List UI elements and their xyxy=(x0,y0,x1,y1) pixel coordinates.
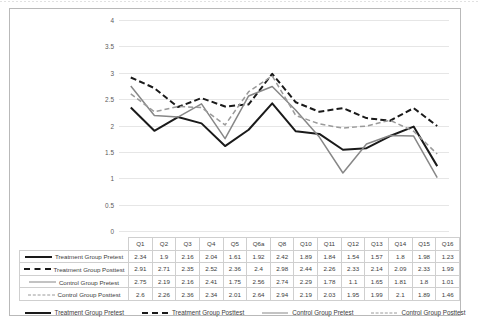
y-axis-tick-label: 0.5 xyxy=(105,201,114,208)
table-cell: 2.33 xyxy=(412,263,436,276)
table-cell: 2.42 xyxy=(270,250,294,263)
series-swatch-icon xyxy=(29,279,56,285)
y-axis-tick-label: 3.5 xyxy=(105,43,114,50)
legend-swatch-icon xyxy=(262,310,288,316)
table-cell: 2.35 xyxy=(176,263,200,276)
table-column-header: Q11 xyxy=(318,238,342,251)
table-cell: 1.65 xyxy=(365,275,389,288)
legend-swatch-line xyxy=(142,312,168,314)
table-column-header: Q6a xyxy=(247,238,271,251)
table-cell: 2.19 xyxy=(152,275,176,288)
table-body: Treatment Group Pretest2.341.92.162.041.… xyxy=(20,250,460,300)
table-cell: 1.99 xyxy=(365,288,389,301)
table-cell: 2.4 xyxy=(247,263,271,276)
table-cell: 2.98 xyxy=(270,263,294,276)
table-corner-cell xyxy=(20,238,129,251)
table-cell: 2.1 xyxy=(389,288,413,301)
table-cell: 2.29 xyxy=(294,275,318,288)
table-column-header: Q15 xyxy=(412,238,436,251)
series-swatch-icon xyxy=(28,292,55,298)
table-cell: 2.34 xyxy=(129,250,153,263)
table-row-header: Treatment Group Pretest xyxy=(20,250,129,263)
series-swatch-icon xyxy=(25,254,52,260)
table-cell: 2.36 xyxy=(176,288,200,301)
table-row: Treatment Group Posttest2.912.712.352.52… xyxy=(20,263,460,276)
table-row-header: Control Group Pretest xyxy=(20,275,129,288)
y-axis-tick-label: 2 xyxy=(110,122,114,129)
chart-page: 00.511.522.533.54 Q1Q2Q3Q4Q5Q6aQ8Q10Q11Q… xyxy=(0,0,478,324)
table-cell: 1.75 xyxy=(223,275,247,288)
table-cell: 1.1 xyxy=(341,275,365,288)
chart-frame: 00.511.522.533.54 Q1Q2Q3Q4Q5Q6aQ8Q10Q11Q… xyxy=(9,8,461,316)
table-cell: 1.8 xyxy=(389,250,413,263)
series-name-label: Treatment Group Pretest xyxy=(55,253,123,260)
table-row: Treatment Group Pretest2.341.92.162.041.… xyxy=(20,250,460,263)
legend-swatch-icon xyxy=(25,310,51,316)
y-axis-tick-label: 3 xyxy=(110,69,114,76)
table-header-row: Q1Q2Q3Q4Q5Q6aQ8Q10Q11Q12Q13Q14Q15Q16 xyxy=(20,238,460,251)
y-axis-tick-label: 1.5 xyxy=(105,148,114,155)
table-column-header: Q3 xyxy=(176,238,200,251)
table-column-header: Q8 xyxy=(270,238,294,251)
y-axis-tick-label: 2.5 xyxy=(105,96,114,103)
chart-legend: Treatment Group PretestTreatment Group P… xyxy=(19,309,471,316)
table-cell: 2.26 xyxy=(152,288,176,301)
table-cell: 2.04 xyxy=(199,250,223,263)
table-cell: 2.44 xyxy=(294,263,318,276)
y-axis-tick-label: 4 xyxy=(110,17,114,24)
table-cell: 1.54 xyxy=(341,250,365,263)
legend-item: Control Group Pretest xyxy=(262,309,353,316)
legend-swatch-line xyxy=(371,312,397,313)
table-column-header: Q16 xyxy=(436,238,460,251)
swatch-line xyxy=(24,268,51,270)
table-cell: 2.41 xyxy=(199,275,223,288)
table-cell: 1.46 xyxy=(436,288,460,301)
table-cell: 1.9 xyxy=(152,250,176,263)
series-layer xyxy=(119,20,449,231)
legend-swatch-icon xyxy=(371,310,397,316)
legend-label: Treatment Group Posttest xyxy=(172,309,244,316)
series-name-label: Treatment Group Posttest xyxy=(54,266,125,273)
table-cell: 2.01 xyxy=(223,288,247,301)
table-cell: 1.78 xyxy=(318,275,342,288)
legend-swatch-line xyxy=(262,312,288,313)
data-table: Q1Q2Q3Q4Q5Q6aQ8Q10Q11Q12Q13Q14Q15Q16 Tre… xyxy=(19,237,460,301)
legend-item: Treatment Group Posttest xyxy=(142,309,244,316)
table-cell: 1.84 xyxy=(318,250,342,263)
table-cell: 2.94 xyxy=(270,288,294,301)
table-cell: 2.09 xyxy=(389,263,413,276)
table-cell: 2.16 xyxy=(176,275,200,288)
table-row-header: Treatment Group Posttest xyxy=(20,263,129,276)
table-cell: 1.23 xyxy=(436,250,460,263)
table-column-header: Q12 xyxy=(341,238,365,251)
table-cell: 1.01 xyxy=(436,275,460,288)
table-cell: 2.14 xyxy=(365,263,389,276)
swatch-line xyxy=(29,282,56,283)
table-cell: 1.89 xyxy=(412,288,436,301)
table-cell: 1.8 xyxy=(412,275,436,288)
table-column-header: Q13 xyxy=(365,238,389,251)
series-name-label: Control Group Posttest xyxy=(58,291,121,298)
series-line-0 xyxy=(131,103,437,166)
table-cell: 2.52 xyxy=(199,263,223,276)
table-column-header: Q2 xyxy=(152,238,176,251)
table-column-header: Q14 xyxy=(389,238,413,251)
legend-label: Treatment Group Pretest xyxy=(55,309,124,316)
table-row: Control Group Posttest2.62.262.362.342.0… xyxy=(20,288,460,301)
table-column-header: Q1 xyxy=(129,238,153,251)
legend-item: Control Group Posttest xyxy=(371,309,465,316)
table-cell: 1.92 xyxy=(247,250,271,263)
swatch-line xyxy=(25,256,52,258)
legend-item: Treatment Group Pretest xyxy=(25,309,124,316)
table-cell: 2.34 xyxy=(199,288,223,301)
table-cell: 2.33 xyxy=(341,263,365,276)
table-cell: 1.99 xyxy=(436,263,460,276)
table-cell: 2.75 xyxy=(129,275,153,288)
table-cell: 2.64 xyxy=(247,288,271,301)
table-cell: 2.91 xyxy=(129,263,153,276)
table-cell: 1.95 xyxy=(341,288,365,301)
table-cell: 2.74 xyxy=(270,275,294,288)
table-cell: 2.36 xyxy=(223,263,247,276)
series-line-2 xyxy=(131,86,437,178)
scan-artifact-line xyxy=(0,1,478,2)
